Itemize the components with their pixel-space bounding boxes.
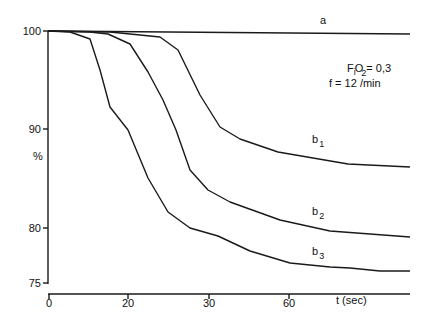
fio2-annotation: FiO2= 0,3 f = 12 /min	[329, 62, 391, 89]
curve-b1	[48, 31, 410, 167]
label-b2: b2	[312, 205, 324, 221]
svg-text:FiO2= 0,3: FiO2= 0,3	[347, 62, 391, 78]
fio2-value: = 0,3	[366, 62, 391, 74]
x-tick-label: 60	[283, 297, 295, 309]
frequency-annotation: f = 12 /min	[329, 77, 381, 89]
y-tick-label: 90	[29, 123, 41, 135]
chart-container: 1009080750203060 ab1b2b3 % t (sec) FiO2=…	[0, 0, 429, 323]
label-a: a	[320, 14, 327, 26]
label-b1: b1	[312, 133, 324, 149]
chart-svg: 1009080750203060 ab1b2b3 % t (sec) FiO2=…	[0, 0, 429, 323]
x-tick-label: 30	[203, 297, 215, 309]
y-tick-label: 100	[23, 25, 41, 37]
x-axis-label: t (sec)	[336, 294, 367, 306]
x-tick-label: 0	[46, 297, 52, 309]
y-tick-label: 75	[29, 277, 41, 289]
label-b3: b3	[312, 245, 324, 261]
y-axis-label: %	[33, 150, 43, 162]
x-tick-label: 20	[122, 297, 134, 309]
series-labels: ab1b2b3	[312, 14, 327, 261]
y-tick-label: 80	[29, 222, 41, 234]
ticks: 1009080750203060	[23, 25, 295, 309]
